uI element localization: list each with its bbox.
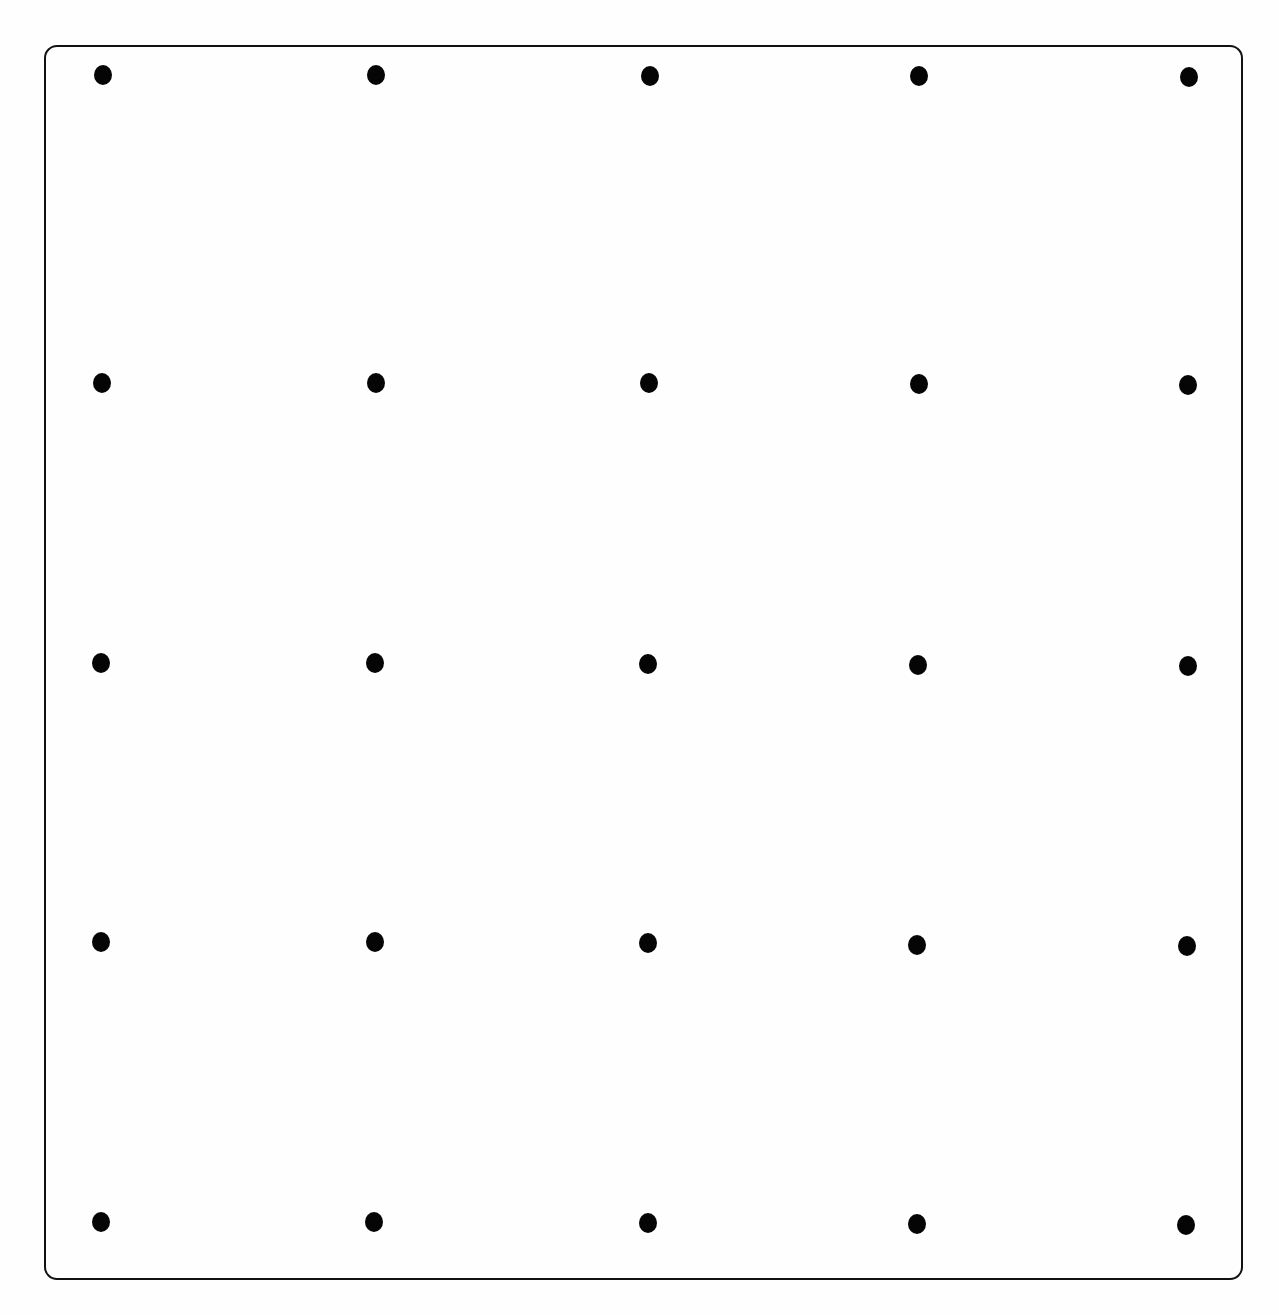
grid-dot-r2-c3: [640, 373, 658, 393]
grid-dot-r3-c2: [366, 653, 384, 673]
grid-dot-r1-c3: [641, 66, 659, 86]
grid-dot-r1-c5: [1180, 67, 1198, 87]
grid-dot-r4-c5: [1178, 936, 1196, 956]
grid-dot-r2-c4: [910, 374, 928, 394]
grid-dot-r4-c2: [366, 932, 384, 952]
grid-dot-r4-c3: [639, 933, 657, 953]
grid-dot-r1-c1: [94, 65, 112, 85]
grid-dot-r3-c4: [909, 655, 927, 675]
grid-dot-r2-c1: [93, 373, 111, 393]
grid-dot-r2-c2: [367, 373, 385, 393]
grid-dot-r5-c3: [639, 1213, 657, 1233]
grid-dot-r4-c1: [92, 932, 110, 952]
dot-grid-page: [0, 0, 1279, 1315]
grid-dot-r5-c2: [365, 1212, 383, 1232]
grid-dot-r3-c5: [1179, 656, 1197, 676]
grid-dot-r1-c4: [910, 66, 928, 86]
grid-dot-r5-c4: [908, 1214, 926, 1234]
grid-dot-r3-c3: [639, 654, 657, 674]
grid-dot-r4-c4: [908, 935, 926, 955]
grid-dot-r3-c1: [92, 653, 110, 673]
grid-dot-r5-c5: [1177, 1215, 1195, 1235]
grid-dot-r1-c2: [367, 65, 385, 85]
grid-dot-r5-c1: [92, 1212, 110, 1232]
grid-dot-r2-c5: [1179, 375, 1197, 395]
